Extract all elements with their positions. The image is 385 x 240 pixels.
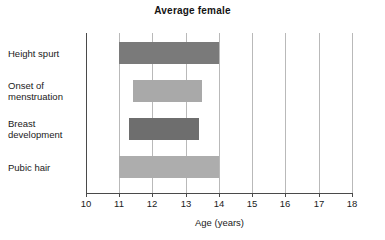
category-label-breast-development: Breast development xyxy=(8,118,82,140)
gridline-15 xyxy=(252,33,253,193)
plot-area xyxy=(86,33,352,193)
x-tick-label-14: 14 xyxy=(207,198,231,209)
chart-figure: Average female 10 11 12 13 14 15 16 17 1… xyxy=(0,0,385,240)
x-tick-label-13: 13 xyxy=(174,198,198,209)
x-tick-label-11: 11 xyxy=(107,198,131,209)
y-axis-spine xyxy=(86,33,87,193)
tick-mark-13 xyxy=(186,193,187,197)
category-label-line: Onset of xyxy=(8,80,82,91)
gridline-18 xyxy=(352,33,353,193)
category-label-line: menstruation xyxy=(8,91,82,102)
gridline-16 xyxy=(285,33,286,193)
category-label-height-spurt: Height spurt xyxy=(8,48,82,59)
x-tick-label-16: 16 xyxy=(273,198,297,209)
category-label-pubic-hair: Pubic hair xyxy=(8,162,82,173)
bar-breast-development xyxy=(129,118,199,140)
category-label-onset-of-menstruation: Onset of menstruation xyxy=(8,80,82,102)
x-tick-label-18: 18 xyxy=(340,198,364,209)
bar-height-spurt xyxy=(119,42,219,64)
category-label-line: Height spurt xyxy=(8,48,82,59)
tick-mark-16 xyxy=(285,193,286,197)
category-label-line: Pubic hair xyxy=(8,162,82,173)
x-tick-label-17: 17 xyxy=(307,198,331,209)
tick-mark-10 xyxy=(86,193,87,197)
gridline-14 xyxy=(219,33,220,193)
gridline-17 xyxy=(319,33,320,193)
tick-mark-18 xyxy=(352,193,353,197)
chart-title: Average female xyxy=(0,5,385,16)
category-label-line: Breast xyxy=(8,118,82,129)
tick-mark-17 xyxy=(319,193,320,197)
bar-onset-of-menstruation xyxy=(133,80,203,102)
tick-mark-14 xyxy=(219,193,220,197)
x-tick-label-12: 12 xyxy=(140,198,164,209)
x-tick-label-15: 15 xyxy=(240,198,264,209)
tick-mark-15 xyxy=(252,193,253,197)
tick-mark-12 xyxy=(152,193,153,197)
bar-pubic-hair xyxy=(119,156,219,178)
x-axis-title: Age (years) xyxy=(86,217,353,228)
x-tick-label-10: 10 xyxy=(74,198,98,209)
category-label-line: development xyxy=(8,129,82,140)
tick-mark-11 xyxy=(119,193,120,197)
